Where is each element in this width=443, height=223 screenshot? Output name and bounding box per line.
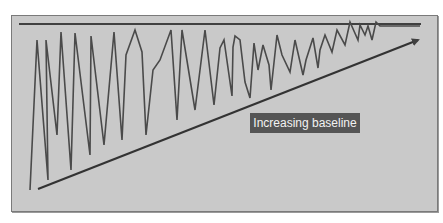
zigzag-series [30, 22, 420, 190]
increasing-baseline-label: Increasing baseline [250, 113, 360, 133]
diagram-canvas [0, 0, 443, 223]
